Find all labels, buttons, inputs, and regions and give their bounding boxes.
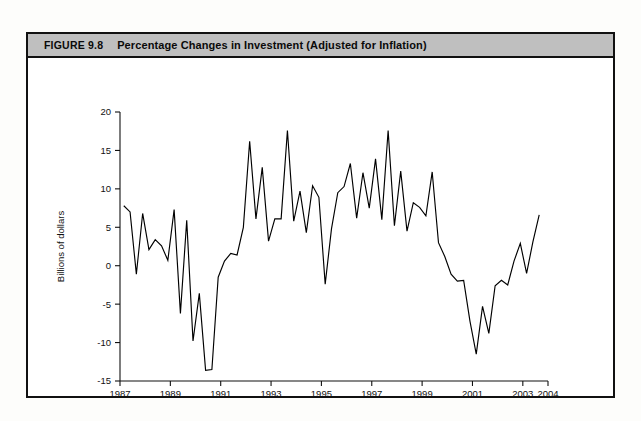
svg-text:2004: 2004 [537,388,558,396]
figure-title: Percentage Changes in Investment (Adjust… [117,39,426,51]
y-axis-tick-labels: 20151050-5-10-15 [97,106,111,386]
y-axis-title: Billions of dollars [55,211,66,283]
svg-text:5: 5 [106,222,111,233]
svg-text:2001: 2001 [462,388,483,396]
series-line [124,130,539,370]
chart-axes [120,112,548,381]
figure-number-label: FIGURE 9.8 [44,39,103,51]
chart-tick-marks [115,112,548,386]
svg-text:1995: 1995 [311,388,332,396]
investment-line-chart: 20151050-5-10-15 19871989199119931995199… [28,58,613,396]
svg-text:20: 20 [100,106,111,117]
svg-text:1997: 1997 [361,388,382,396]
x-axis-tick-labels: 1987198919911993199519971999200120032004 [109,388,558,396]
svg-text:1999: 1999 [412,388,433,396]
svg-text:1991: 1991 [210,388,231,396]
chart-plot-area: 20151050-5-10-15 19871989199119931995199… [28,58,613,396]
svg-text:-15: -15 [97,375,111,386]
svg-text:-5: -5 [103,299,111,310]
page-canvas: FIGURE 9.8 Percentage Changes in Investm… [0,0,641,421]
figure-box: FIGURE 9.8 Percentage Changes in Investm… [26,32,615,398]
svg-text:1993: 1993 [260,388,281,396]
svg-text:2003: 2003 [512,388,533,396]
svg-text:-10: -10 [97,337,111,348]
svg-text:15: 15 [100,145,111,156]
svg-text:0: 0 [106,260,111,271]
chart-data-series [124,130,539,370]
svg-text:1989: 1989 [160,388,181,396]
svg-text:10: 10 [100,183,111,194]
figure-header: FIGURE 9.8 Percentage Changes in Investm… [28,34,613,58]
svg-text:1987: 1987 [109,388,130,396]
